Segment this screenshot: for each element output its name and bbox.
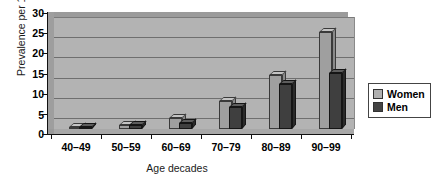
x-tick-label-90-99: 90–99	[301, 141, 351, 153]
x-tick-mark	[251, 135, 252, 139]
y-tick-label-30: 30	[4, 8, 44, 18]
bar-side	[292, 79, 296, 129]
legend-label-men: Men	[387, 101, 408, 113]
y-tick-label-0: 0	[4, 129, 44, 139]
plot-area	[48, 12, 354, 134]
legend-item-women[interactable]: Women	[373, 88, 425, 100]
x-tick-mark	[351, 135, 352, 139]
legend-swatch-men	[373, 102, 383, 112]
x-tick-mark	[51, 135, 52, 139]
y-tick-label-25: 25	[4, 28, 44, 38]
bar-face	[329, 73, 342, 129]
bar-men-80-89	[279, 84, 292, 129]
legend: Women Men	[368, 83, 431, 118]
bar-men-50-59	[129, 125, 142, 129]
legend-label-women: Women	[387, 88, 425, 100]
bar-men-40-49	[79, 127, 92, 129]
x-tick-label-70-79: 70–79	[201, 141, 251, 153]
x-tick-label-60-69: 60–69	[151, 141, 201, 153]
bar-face	[279, 84, 292, 129]
x-tick-mark	[201, 135, 202, 139]
bar-face	[179, 123, 192, 129]
bar-series-container	[54, 17, 354, 129]
x-tick-label-40-49: 40–49	[51, 141, 101, 153]
bar-men-60-69	[179, 123, 192, 129]
bar-side	[342, 68, 346, 129]
x-tick-mark	[151, 135, 152, 139]
y-tick-label-20: 20	[4, 48, 44, 58]
y-axis-line	[47, 12, 48, 135]
y-tick-label-10: 10	[4, 89, 44, 99]
bar-face	[229, 107, 242, 129]
legend-swatch-women	[373, 89, 383, 99]
bar-face	[79, 127, 92, 129]
y-tick-label-5: 5	[4, 110, 44, 120]
x-tick-label-80-89: 80–89	[251, 141, 301, 153]
x-tick-label-50-59: 50–59	[101, 141, 151, 153]
bar-face	[129, 125, 142, 129]
bar-men-70-79	[229, 107, 242, 129]
x-tick-mark	[301, 135, 302, 139]
x-axis-title: Age decades	[0, 162, 354, 174]
y-axis-ticks: 30 25 20 15 10 5 0	[0, 0, 44, 185]
x-tick-mark	[101, 135, 102, 139]
bar-men-90-99	[329, 73, 342, 129]
y-tick-label-15: 15	[4, 69, 44, 79]
bar-chart: Prevalence per 1,000 30 25 20 15 10 5 0	[0, 0, 445, 185]
legend-item-men[interactable]: Men	[373, 101, 425, 113]
